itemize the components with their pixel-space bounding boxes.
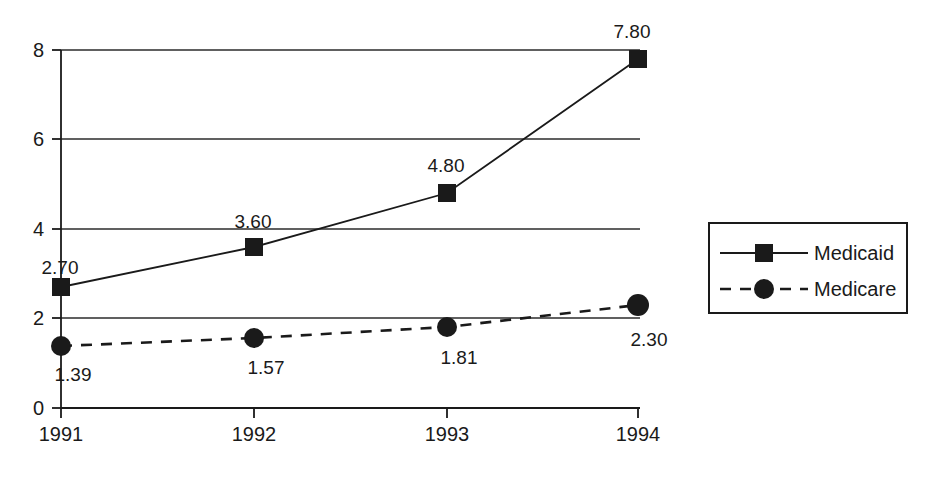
value-label-medicare-1994: 2.30 — [609, 330, 689, 349]
series-line-medicaid — [61, 59, 638, 287]
chart-legend: Medicaid Medicare — [708, 222, 908, 314]
y-axis-tick-label-4: 4 — [14, 219, 44, 239]
series-line-medicare — [61, 305, 638, 346]
value-label-medicare-1991: 1.39 — [33, 365, 113, 384]
legend-label-medicaid: Medicaid — [814, 243, 894, 263]
value-label-medicaid-1993: 4.80 — [406, 156, 486, 175]
value-label-medicaid-1991: 2.70 — [20, 258, 100, 277]
data-point-medicare-1994 — [627, 294, 649, 316]
x-axis-tick-label-1994: 1994 — [593, 424, 683, 444]
data-point-medicaid-1994 — [629, 50, 647, 68]
data-point-medicare-1993 — [437, 317, 457, 337]
series-markers-medicare — [51, 294, 649, 356]
chart-figure: 8 6 4 2 0 1991 1992 1993 1994 2.70 3.60 … — [0, 0, 928, 482]
gridlines — [61, 50, 640, 318]
legend-label-medicare: Medicare — [814, 279, 896, 299]
data-point-medicaid-1991 — [52, 278, 70, 296]
y-axis-tick-label-6: 6 — [14, 129, 44, 149]
legend-swatch-medicare — [718, 275, 810, 303]
x-tick-marks — [61, 408, 638, 418]
data-point-medicaid-1993 — [438, 184, 456, 202]
x-axis-tick-label-1991: 1991 — [16, 424, 106, 444]
y-axis-tick-label-8: 8 — [14, 40, 44, 60]
data-point-medicare-1991 — [51, 336, 71, 356]
data-point-medicaid-1992 — [245, 238, 263, 256]
data-point-medicare-1992 — [244, 328, 264, 348]
legend-marker-square — [755, 244, 773, 262]
legend-item-medicaid[interactable]: Medicaid — [710, 238, 910, 268]
series-markers-medicaid — [52, 50, 647, 296]
value-label-medicaid-1992: 3.60 — [213, 212, 293, 231]
x-axis-tick-label-1992: 1992 — [209, 424, 299, 444]
legend-item-medicare[interactable]: Medicare — [710, 274, 910, 304]
legend-marker-circle — [754, 279, 774, 299]
value-label-medicare-1993: 1.81 — [419, 348, 499, 367]
value-label-medicaid-1994: 7.80 — [592, 22, 672, 41]
value-label-medicare-1992: 1.57 — [226, 358, 306, 377]
y-axis-tick-label-2: 2 — [14, 308, 44, 328]
legend-swatch-medicaid — [718, 239, 810, 267]
y-axis-tick-label-0: 0 — [14, 398, 44, 418]
x-axis-tick-label-1993: 1993 — [402, 424, 492, 444]
